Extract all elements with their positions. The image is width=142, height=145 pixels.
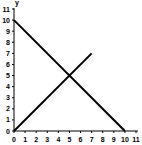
x-tick-label: 1	[23, 136, 27, 143]
y-tick-label: 7	[6, 50, 10, 57]
x-tick-label: 4	[56, 136, 60, 143]
y-tick-label: 6	[6, 61, 10, 68]
x-tick-label: 11	[132, 136, 140, 143]
x-tick-label: 0	[12, 136, 16, 143]
y-tick-label: 3	[6, 94, 10, 101]
line-chart: y 01234567891011 01234567891011	[0, 0, 142, 145]
x-tick-label: 3	[45, 136, 49, 143]
series-line	[14, 53, 92, 131]
x-tick-label: 2	[34, 136, 38, 143]
y-axis-label: y	[15, 0, 19, 7]
y-ticks: 01234567891011	[2, 6, 14, 135]
y-tick-label: 1	[6, 116, 10, 123]
y-tick-label: 10	[2, 17, 10, 24]
x-tick-label: 7	[90, 136, 94, 143]
y-tick-label: 8	[6, 39, 10, 46]
x-tick-label: 8	[101, 136, 105, 143]
y-tick-label: 2	[6, 105, 10, 112]
y-tick-label: 9	[6, 28, 10, 35]
x-tick-label: 10	[121, 136, 129, 143]
x-tick-label: 9	[112, 136, 116, 143]
x-tick-label: 6	[79, 136, 83, 143]
y-tick-label: 11	[3, 6, 11, 13]
y-tick-label: 5	[6, 72, 10, 79]
x-ticks: 01234567891011	[12, 131, 140, 143]
y-tick-label: 0	[6, 128, 10, 135]
x-tick-label: 5	[68, 136, 72, 143]
series-lines	[14, 20, 125, 131]
y-tick-label: 4	[6, 83, 10, 90]
